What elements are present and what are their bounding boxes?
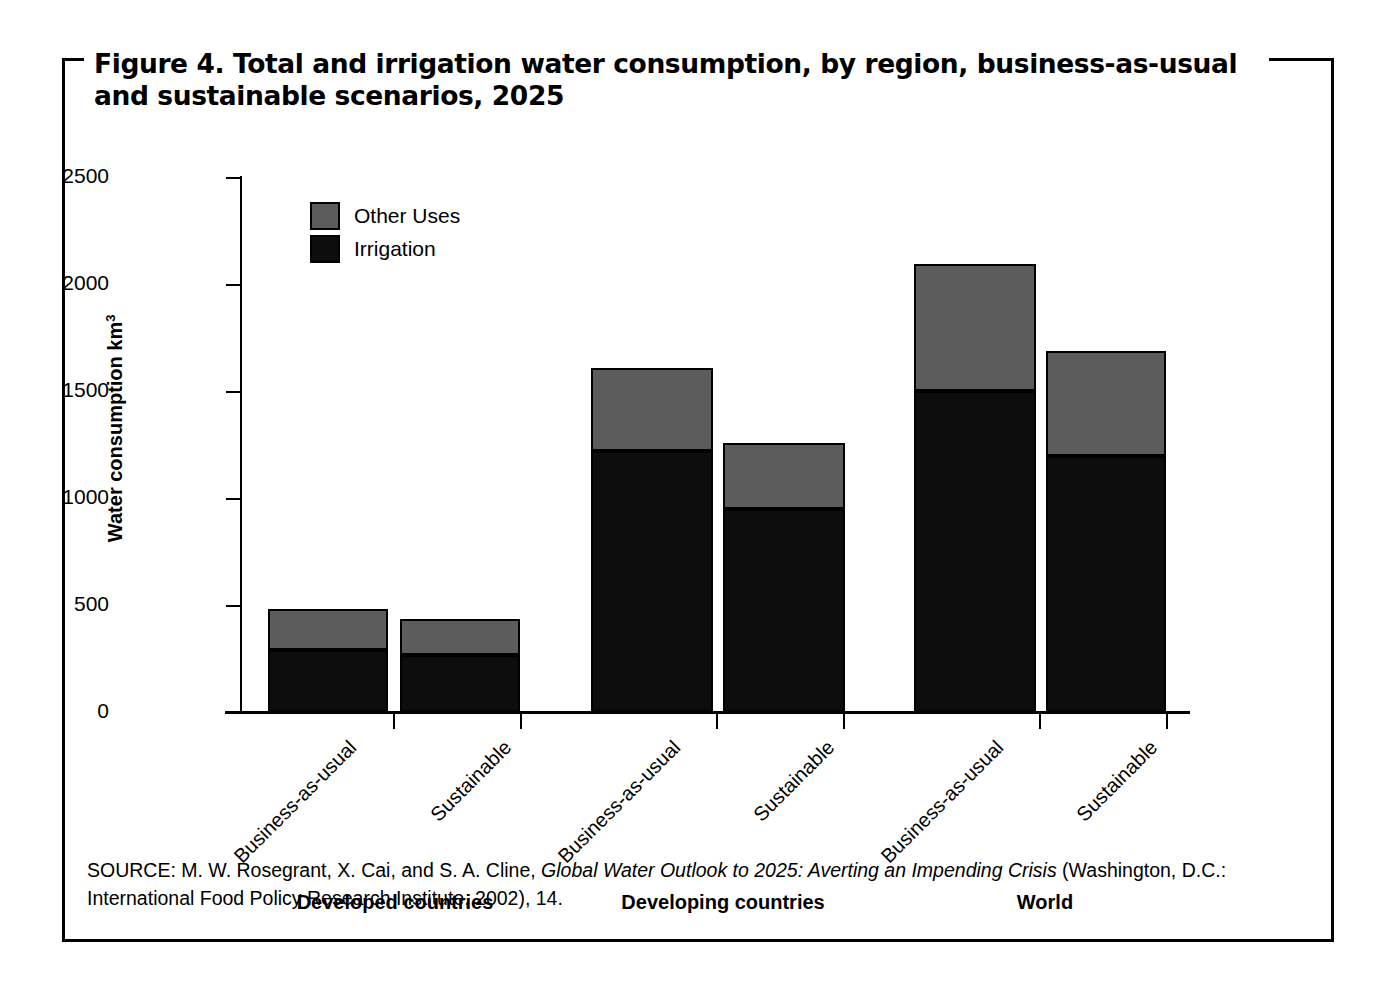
y-tick-label-500: 500 [74, 592, 109, 616]
x-tick-6 [1166, 714, 1168, 729]
chart-plot-area: Water consumption km3 0 500 1000 1500 20… [65, 61, 1337, 945]
figure-title-container: Figure 4. Total and irrigation water con… [84, 42, 1269, 115]
legend-label-irrigation: Irrigation [354, 237, 436, 261]
source-note-prefix: SOURCE: M. W. Rosegrant, X. Cai, and S. … [87, 859, 541, 881]
y-tick-0 [226, 712, 241, 714]
y-tick-label-1000: 1000 [62, 485, 109, 509]
legend-item-other-uses[interactable]: Other Uses [310, 199, 460, 232]
y-tick-label-1500: 1500 [62, 378, 109, 402]
bar-segment-irrigation[interactable] [723, 509, 845, 712]
bar-segment-irrigation[interactable] [591, 451, 713, 712]
legend-label-other-uses: Other Uses [354, 204, 460, 228]
y-tick-1000 [226, 498, 241, 500]
chart-legend: Other Uses Irrigation [310, 199, 460, 265]
x-tick-4 [843, 714, 845, 729]
source-note-title: Global Water Outlook to 2025: Averting a… [541, 859, 1057, 881]
bar-developed-business-as-usual[interactable] [268, 609, 388, 712]
y-axis-line [240, 176, 242, 713]
bar-world-business-as-usual[interactable] [914, 264, 1036, 712]
figure-frame: Water consumption km3 0 500 1000 1500 20… [62, 58, 1334, 942]
y-tick-2500 [226, 177, 241, 179]
bar-segment-other-uses[interactable] [400, 619, 520, 655]
bar-developing-business-as-usual[interactable] [591, 368, 713, 712]
y-tick-500 [226, 605, 241, 607]
source-note: SOURCE: M. W. Rosegrant, X. Cai, and S. … [87, 856, 1317, 913]
bar-segment-irrigation[interactable] [914, 391, 1036, 712]
bar-segment-irrigation[interactable] [268, 650, 388, 712]
bar-segment-irrigation[interactable] [400, 655, 520, 712]
y-axis-title-superscript: 3 [103, 315, 118, 322]
x-tick-2 [520, 714, 522, 729]
bar-segment-other-uses[interactable] [591, 368, 713, 451]
y-tick-label-0: 0 [97, 699, 109, 723]
bar-segment-irrigation[interactable] [1046, 456, 1166, 712]
bar-developed-sustainable[interactable] [400, 619, 520, 712]
bar-segment-other-uses[interactable] [1046, 351, 1166, 456]
page-title: Figure 4. Total and irrigation water con… [94, 48, 1259, 113]
legend-swatch-irrigation-icon [310, 235, 340, 263]
bar-segment-other-uses[interactable] [268, 609, 388, 650]
bar-segment-other-uses[interactable] [723, 443, 845, 509]
x-tick-3 [716, 714, 718, 729]
y-axis-title: Water consumption km3 [103, 258, 128, 598]
y-tick-label-2000: 2000 [62, 271, 109, 295]
x-tick-1 [393, 714, 395, 729]
x-tick-5 [1039, 714, 1041, 729]
bar-segment-other-uses[interactable] [914, 264, 1036, 391]
bar-developing-sustainable[interactable] [723, 443, 845, 712]
y-tick-1500 [226, 391, 241, 393]
bar-world-sustainable[interactable] [1046, 351, 1166, 712]
y-tick-label-2500: 2500 [62, 164, 109, 188]
y-axis-title-text: Water consumption km [104, 322, 126, 542]
legend-swatch-other-uses-icon [310, 202, 340, 230]
y-tick-2000 [226, 284, 241, 286]
legend-item-irrigation[interactable]: Irrigation [310, 232, 460, 265]
